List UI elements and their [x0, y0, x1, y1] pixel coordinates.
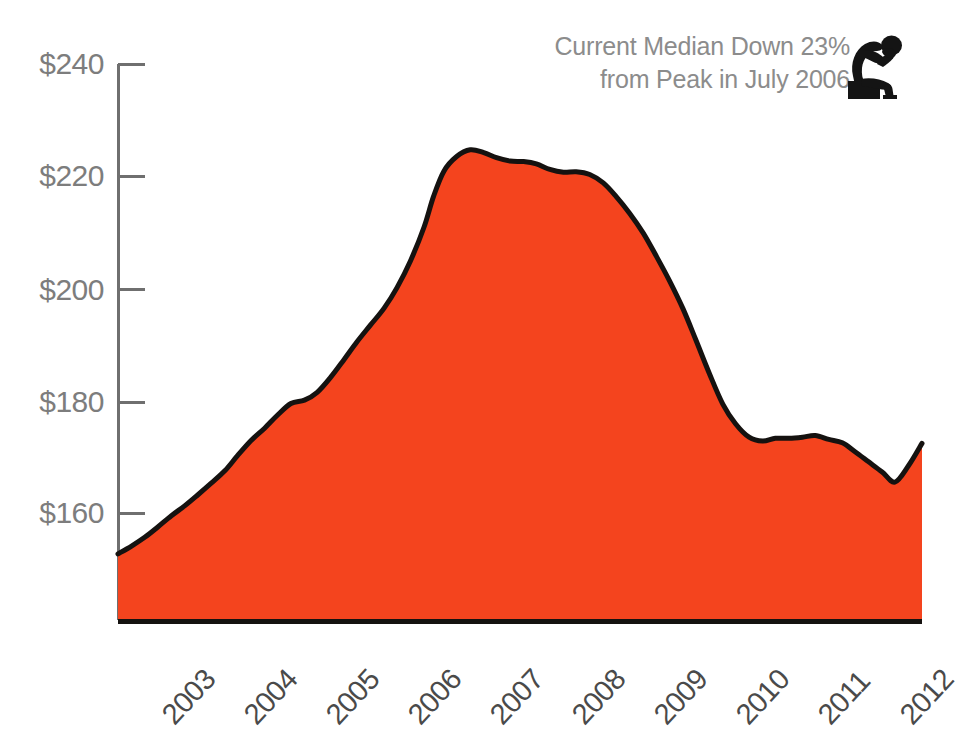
x-tick-label-2007: 2007	[485, 664, 549, 729]
x-tick-label-2005: 2005	[321, 664, 385, 729]
x-tick-label-2009: 2009	[649, 664, 713, 729]
x-tick-label-2003: 2003	[157, 664, 221, 729]
x-tick-label-2012: 2012	[895, 664, 959, 729]
x-tick-label-2004: 2004	[239, 664, 303, 729]
x-tick-label-2010: 2010	[731, 664, 795, 729]
x-tick-label-2006: 2006	[403, 664, 467, 729]
x-tick-label-2008: 2008	[567, 664, 631, 729]
x-tick-label-2011: 2011	[813, 666, 875, 730]
